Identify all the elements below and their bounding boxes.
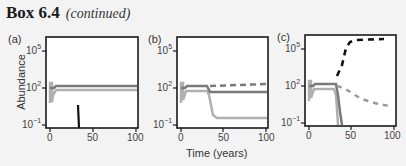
panel-b-plot [173, 37, 268, 132]
panel-c-plot [301, 35, 396, 130]
plots-canvas [0, 0, 406, 166]
panel-a-plot [42, 37, 138, 132]
